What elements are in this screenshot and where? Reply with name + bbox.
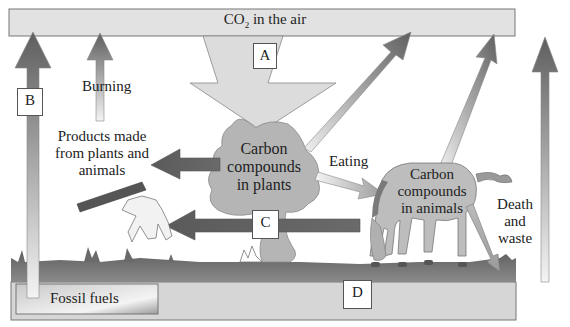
carbon-cycle-diagram: CO2 in the air A B C D Burning Products … [0, 0, 570, 327]
letter-box-a: A [253, 43, 277, 69]
co2-air-label: CO2 in the air [200, 11, 330, 30]
horse-tail [476, 172, 512, 182]
arrow-animal-respiration [440, 34, 497, 168]
arrow-burning [87, 33, 113, 121]
tree-grass [240, 246, 262, 262]
animals-label: Carbon compounds in animals [392, 166, 472, 216]
eating-label: Eating [329, 153, 389, 170]
burning-label: Burning [82, 78, 152, 95]
arrow-eating [315, 172, 384, 199]
plants-label: Carbon compounds in plants [222, 140, 306, 194]
letter-box-c: C [252, 210, 279, 239]
death-and-waste-label: Death and waste [490, 196, 540, 246]
letter-box-d: D [343, 280, 372, 309]
fossil-fuels-label: Fossil fuels [50, 290, 150, 307]
shirt-shape [122, 196, 172, 242]
letter-box-b: B [17, 88, 43, 116]
products-label: Products made from plants and animals [48, 128, 156, 178]
